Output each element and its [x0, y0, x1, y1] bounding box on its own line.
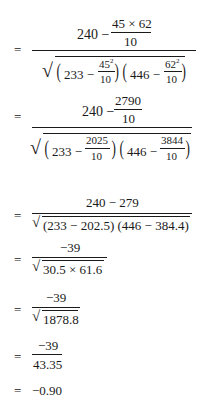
main-fraction-bar — [32, 127, 192, 128]
term1-lead: 233 − — [52, 145, 82, 158]
sqrt-vinculum — [42, 260, 104, 261]
equals-sign: = — [14, 303, 21, 316]
sqrt-vinculum — [55, 56, 185, 57]
term2-num: 3844 — [161, 135, 183, 146]
step-7: = −0.90 — [0, 382, 203, 402]
final-result: −0.90 — [32, 384, 62, 397]
sqrt-icon: √ — [30, 137, 41, 157]
equals-sign: = — [14, 384, 21, 397]
paren-close: ) — [111, 137, 115, 159]
fraction-bar — [32, 354, 62, 355]
paren-close: ) — [185, 137, 189, 159]
term2-bar — [164, 71, 182, 72]
step-5: = −39 √ 1878.8 — [0, 290, 203, 330]
term1-den: 10 — [100, 74, 111, 85]
equals-sign: = — [14, 253, 21, 266]
term2-bar — [160, 148, 185, 149]
sqrt-icon: √ — [32, 309, 40, 324]
numerator-frac-den: 10 — [124, 35, 137, 48]
sqrt-vinculum — [42, 310, 78, 311]
step-1: = 240 − 45 × 62 10 √ ( 233 − 452 10 ) ( … — [0, 0, 203, 95]
paren-open: ( — [122, 60, 126, 82]
numerator-frac-bar — [114, 109, 142, 110]
term2-lead: 446 − — [127, 145, 157, 158]
numerator: −39 — [38, 339, 58, 352]
numerator: −39 — [46, 291, 66, 304]
sqrt-vinculum — [42, 216, 190, 217]
paren-close: ) — [114, 60, 118, 82]
equals-sign: = — [14, 350, 21, 363]
equals-sign: = — [14, 110, 21, 123]
step-4: = −39 √ 30.5 × 61.6 — [0, 240, 203, 280]
term2-num: 622 — [165, 58, 180, 70]
step-2: = 240 − 2790 10 √ ( 233 − 2025 10 ) ( 44… — [0, 100, 203, 195]
term1-lead: 233 − — [64, 68, 94, 81]
term1-bar — [85, 148, 110, 149]
equals-sign: = — [14, 43, 21, 56]
paren-open: ( — [56, 60, 60, 82]
numerator-frac-num: 45 × 62 — [112, 17, 152, 30]
term1-den: 10 — [91, 151, 102, 162]
numerator: 240 − 279 — [86, 196, 139, 209]
denominator: 30.5 × 61.6 — [43, 263, 102, 276]
numerator-lead: 240 − — [82, 105, 114, 119]
term2-den: 10 — [166, 151, 177, 162]
denominator: 43.35 — [33, 358, 62, 371]
numerator-frac-den: 10 — [122, 112, 135, 125]
sqrt-icon: √ — [32, 215, 40, 230]
main-fraction-bar — [32, 50, 196, 51]
numerator-frac-num: 2790 — [115, 94, 141, 107]
denominator: (233 − 202.5) (446 − 384.4) — [43, 219, 189, 232]
equals-sign: = — [14, 209, 21, 222]
paren-close: ) — [181, 60, 185, 82]
step-6: = −39 43.35 — [0, 338, 203, 373]
paren-open: ( — [44, 137, 48, 159]
step-3: = 240 − 279 √ (233 − 202.5) (446 − 384.4… — [0, 190, 203, 230]
numerator-frac-bar — [111, 32, 151, 33]
term1-num: 452 — [99, 58, 114, 70]
sqrt-icon: √ — [42, 60, 53, 80]
term1-bar — [98, 71, 115, 72]
term2-den: 10 — [166, 74, 177, 85]
denominator: 1878.8 — [43, 313, 79, 326]
term1-num: 2025 — [86, 135, 108, 146]
numerator-lead: 240 − — [77, 28, 109, 42]
term2-lead: 446 − — [130, 68, 160, 81]
fraction-bar — [32, 213, 192, 214]
paren-open: ( — [119, 137, 123, 159]
numerator: −39 — [60, 241, 80, 254]
sqrt-icon: √ — [32, 259, 40, 274]
fraction-bar — [32, 257, 107, 258]
